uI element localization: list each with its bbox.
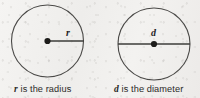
diameter-center-dot (151, 41, 157, 47)
radius-caption-text: is the radius (18, 84, 72, 94)
diameter-diagram-group (118, 8, 190, 80)
radius-diagram-group (12, 5, 84, 77)
radius-caption: r is the radius (14, 84, 71, 94)
radius-center-dot (44, 38, 50, 44)
diameter-caption: d is the diameter (114, 84, 183, 94)
diameter-label: d (151, 28, 156, 38)
circle-radius-diameter-figure: r d r is the radius d is the diameter (0, 0, 200, 98)
radius-label: r (66, 28, 70, 38)
diameter-caption-text: is the diameter (119, 84, 183, 94)
